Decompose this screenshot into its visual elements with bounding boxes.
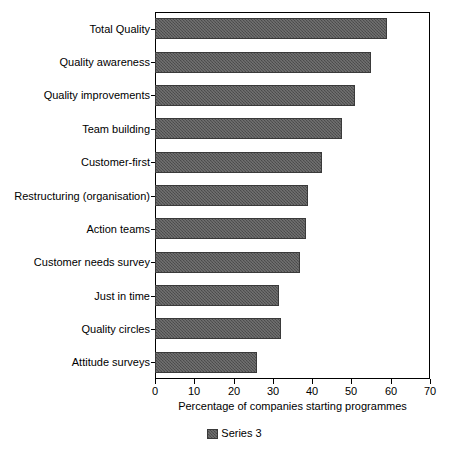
x-axis-tick [430,379,431,384]
bar-restructuring-organisation[interactable] [155,185,308,206]
category-label: Quality awareness [0,56,150,68]
x-axis-tick-label: 30 [253,385,293,398]
x-axis-tick-label: 50 [331,385,371,398]
y-axis-tick [151,129,155,130]
bar-row [155,52,430,73]
bar-customer-needs-survey[interactable] [155,252,300,273]
legend-label-series-3: Series 3 [221,427,261,440]
bar-quality-improvements[interactable] [155,85,355,106]
bar-row [155,352,430,373]
x-axis-tick [194,379,195,384]
x-axis-tick [351,379,352,384]
category-label: Customer-first [0,156,150,168]
bar-row [155,118,430,139]
y-axis-tick [151,362,155,363]
bar-customer-first[interactable] [155,152,322,173]
x-axis-tick-label: 10 [174,385,214,398]
y-axis-tick [151,62,155,63]
category-label: Action teams [0,223,150,235]
category-label: Just in time [0,290,150,302]
y-axis-tick [151,262,155,263]
bar-quality-circles[interactable] [155,318,281,339]
x-axis-tick-label: 20 [214,385,254,398]
x-axis-tick-label: 40 [292,385,332,398]
x-axis-tick [155,379,156,384]
category-label: Customer needs survey [0,256,150,268]
legend-swatch-series-3 [207,429,218,439]
x-axis-title: Percentage of companies starting program… [155,400,430,413]
y-axis-tick [151,162,155,163]
y-axis-tick [151,329,155,330]
x-axis-tick [273,379,274,384]
x-axis-tick-label: 0 [135,385,175,398]
bar-just-in-time[interactable] [155,285,279,306]
y-axis-tick [151,95,155,96]
y-axis-tick [151,29,155,30]
category-label: Restructuring (organisation) [0,190,150,202]
bar-row [155,285,430,306]
bar-chart: Total QualityQuality awarenessQuality im… [0,0,469,456]
bar-action-teams[interactable] [155,218,306,239]
bar-row [155,152,430,173]
bar-row [155,218,430,239]
bar-team-building[interactable] [155,118,342,139]
bar-row [155,318,430,339]
x-axis-tick [312,379,313,384]
bar-row [155,85,430,106]
y-axis-tick [151,296,155,297]
x-axis-tick [391,379,392,384]
bar-row [155,252,430,273]
bar-row [155,185,430,206]
x-axis-tick-label: 60 [371,385,411,398]
bar-quality-awareness[interactable] [155,52,371,73]
x-axis-tick-label: 70 [410,385,450,398]
category-label: Quality circles [0,323,150,335]
bar-attitude-surveys[interactable] [155,352,257,373]
category-label: Attitude surveys [0,356,150,368]
category-label: Team building [0,123,150,135]
bar-total-quality[interactable] [155,18,387,39]
chart-legend: Series 3 [0,427,469,440]
y-axis-tick [151,196,155,197]
bar-row [155,18,430,39]
category-label: Total Quality [0,23,150,35]
y-axis-tick [151,229,155,230]
x-axis-tick [234,379,235,384]
category-label: Quality improvements [0,89,150,101]
